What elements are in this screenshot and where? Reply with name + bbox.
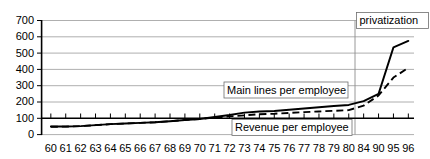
y-tick-label: 200	[16, 95, 34, 107]
x-tick-label: 96	[402, 142, 414, 154]
x-tick-label: 61	[60, 142, 72, 154]
y-axis-tick-labels: 700 600 500 400 300 200 100 0	[16, 14, 34, 140]
x-tick-label: 95	[387, 142, 399, 154]
y-tick-label: 500	[16, 47, 34, 59]
x-tick-label: 79	[328, 142, 340, 154]
x-tick-label: 72	[223, 142, 235, 154]
y-tick-label: 100	[16, 112, 34, 124]
y-tick-label: 400	[16, 63, 34, 75]
x-tick-label: 75	[268, 142, 280, 154]
chart-canvas: 700 600 500 400 300 200 100 0 privatizat…	[0, 0, 430, 159]
x-tick-label: 62	[75, 142, 87, 154]
x-tick-label: 66	[134, 142, 146, 154]
y-tick-label: 700	[16, 14, 34, 26]
x-tick-label: 80	[343, 142, 355, 154]
x-tick-label: 64	[104, 142, 116, 154]
x-tick-label: 77	[298, 142, 310, 154]
main-lines-series-label: Main lines per employee	[227, 84, 346, 96]
privatization-annotation: privatization	[357, 13, 429, 29]
x-tick-label: 90	[372, 142, 384, 154]
revenue-annotation: Revenue per employee	[232, 120, 352, 136]
privatization-label: privatization	[360, 14, 419, 26]
x-tick-label: 67	[149, 142, 161, 154]
x-tick-label: 74	[253, 142, 265, 154]
x-tick-label: 76	[283, 142, 295, 154]
y-tick-label: 0	[28, 128, 34, 140]
y-tick-label: 300	[16, 79, 34, 91]
y-tick-label: 600	[16, 30, 34, 42]
x-tick-label: 65	[119, 142, 131, 154]
gridlines	[41, 21, 414, 135]
x-tick-label: 63	[89, 142, 101, 154]
x-tick-label: 60	[45, 142, 57, 154]
x-tick-label: 78	[313, 142, 325, 154]
line-chart: 700 600 500 400 300 200 100 0 privatizat…	[0, 0, 430, 159]
main-lines-annotation: Main lines per employee	[224, 82, 348, 98]
x-tick-label: 69	[179, 142, 191, 154]
x-tick-label: 73	[238, 142, 250, 154]
revenue-series-label: Revenue per employee	[235, 121, 349, 133]
x-axis-tick-labels: 6061626364656667686970717273747576777879…	[45, 142, 415, 154]
x-tick-label: 68	[164, 142, 176, 154]
x-tick-label: 84	[358, 142, 370, 154]
x-tick-label: 71	[209, 142, 221, 154]
x-tick-label: 70	[194, 142, 206, 154]
